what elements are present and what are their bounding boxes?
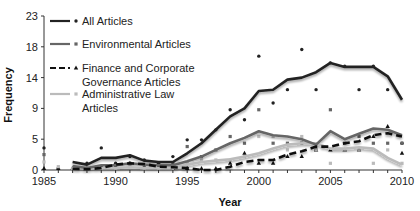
square-marker [372, 162, 375, 165]
square-marker [386, 142, 389, 145]
legend-label: Finance and Corporate [82, 62, 195, 74]
y-axis-title: Frequency [2, 66, 14, 123]
square-marker [372, 142, 375, 145]
triangle-marker [74, 66, 78, 70]
diamond-marker [74, 19, 77, 22]
diamond-marker [271, 101, 274, 104]
diamond-marker [314, 88, 317, 91]
x-tick-label: 2010 [390, 175, 414, 187]
triangle-marker [400, 151, 404, 155]
diamond-marker [42, 146, 45, 149]
triangle-marker [257, 161, 261, 165]
diamond-marker [228, 108, 231, 111]
diamond-marker [386, 88, 389, 91]
trend-line-finance-and-corporate-governance-articles [73, 133, 402, 170]
y-tick-label: 5 [32, 133, 38, 145]
square-marker [329, 162, 332, 165]
x-tick-label: 1995 [175, 175, 199, 187]
diamond-marker [100, 146, 103, 149]
square-marker [57, 165, 60, 168]
chart: 059141823198519901995200020052010 All Ar… [0, 0, 420, 211]
diamond-marker [300, 48, 303, 51]
y-tick-label: 14 [26, 72, 38, 84]
legend: All ArticlesEnvironmental ArticlesFinanc… [50, 15, 195, 114]
y-tick-label: 9 [32, 102, 38, 114]
square-marker [357, 148, 360, 151]
triangle-marker [271, 161, 275, 165]
square-marker [314, 148, 317, 151]
legend-label: Governance Articles [82, 76, 181, 88]
square-marker [286, 148, 289, 151]
x-tick-label: 2000 [247, 175, 271, 187]
square-marker [386, 148, 389, 151]
square-marker [186, 145, 189, 148]
x-tick-label: 1985 [32, 175, 56, 187]
square-marker [257, 108, 260, 111]
x-axis-title: Year [218, 196, 242, 208]
diamond-marker [171, 155, 174, 158]
diamond-marker [286, 88, 289, 91]
diamond-marker [257, 54, 260, 57]
legend-label: Administrative Law [82, 88, 174, 100]
y-tick-label: 23 [26, 10, 38, 22]
square-marker [42, 160, 45, 163]
square-marker [300, 135, 303, 138]
square-marker [400, 142, 403, 145]
triangle-marker [199, 166, 203, 170]
triangle-marker [285, 154, 289, 158]
triangle-marker [300, 154, 304, 158]
legend-label: Articles [82, 102, 119, 114]
triangle-marker [385, 124, 389, 128]
x-tick-label: 2005 [318, 175, 342, 187]
square-marker [243, 142, 246, 145]
legend-label: All Articles [82, 15, 133, 27]
square-marker [74, 92, 77, 95]
diamond-marker [357, 88, 360, 91]
square-marker [74, 42, 77, 45]
square-marker [257, 135, 260, 138]
diamond-marker [243, 118, 246, 121]
legend-label: Environmental Articles [82, 38, 191, 50]
triangle-marker [242, 151, 246, 155]
square-marker [329, 108, 332, 111]
square-marker [42, 153, 45, 156]
x-tick-label: 1990 [103, 175, 127, 187]
triangle-marker [42, 166, 46, 170]
diamond-marker [186, 138, 189, 141]
square-marker [272, 142, 275, 145]
y-tick-label: 18 [26, 41, 38, 53]
square-marker [229, 135, 232, 138]
